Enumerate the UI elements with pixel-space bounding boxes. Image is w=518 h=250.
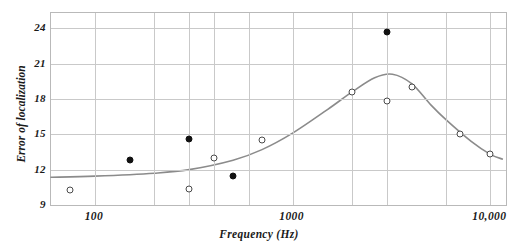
gridline-horizontal bbox=[51, 99, 506, 100]
data-point-filled bbox=[126, 157, 133, 164]
data-point-open bbox=[456, 131, 463, 138]
data-point-open bbox=[487, 151, 494, 158]
y-tick-label: 9 bbox=[2, 198, 46, 210]
data-point-open bbox=[258, 137, 265, 144]
y-tick-label: 21 bbox=[2, 57, 46, 69]
gridline-vertical bbox=[154, 13, 155, 205]
gridline-horizontal bbox=[51, 170, 506, 171]
data-point-open bbox=[408, 84, 415, 91]
gridline-horizontal bbox=[51, 64, 506, 65]
data-point-open bbox=[210, 154, 217, 161]
y-tick-label: 15 bbox=[2, 127, 46, 139]
data-point-open bbox=[186, 185, 193, 192]
x-tick-label: 1000 bbox=[279, 210, 304, 222]
gridline-vertical bbox=[189, 13, 190, 205]
plot-area bbox=[50, 12, 507, 206]
data-point-filled bbox=[383, 28, 390, 35]
data-point-filled bbox=[186, 136, 193, 143]
gridline-horizontal bbox=[51, 134, 506, 135]
gridline-vertical bbox=[490, 13, 491, 205]
gridline-vertical bbox=[293, 13, 294, 205]
gridline-vertical bbox=[446, 13, 447, 205]
x-axis-title: Frequency (Hz) bbox=[0, 228, 518, 240]
gridline-vertical bbox=[387, 13, 388, 205]
y-tick-label: 18 bbox=[2, 92, 46, 104]
data-point-filled bbox=[230, 172, 237, 179]
data-point-open bbox=[349, 88, 356, 95]
gridline-vertical bbox=[249, 13, 250, 205]
x-tick-label: 100 bbox=[85, 210, 103, 222]
gridline-horizontal bbox=[51, 28, 506, 29]
gridline-vertical bbox=[352, 13, 353, 205]
x-axis-tick-labels: 100100010,000 bbox=[0, 210, 518, 226]
gridline-vertical bbox=[95, 13, 96, 205]
y-axis-tick-labels: 24211815129 bbox=[0, 12, 46, 206]
y-tick-label: 12 bbox=[2, 163, 46, 175]
data-point-open bbox=[67, 186, 74, 193]
chart-figure: Error of localization 24211815129 100100… bbox=[0, 0, 518, 250]
fitted-curve bbox=[51, 13, 506, 205]
gridline-vertical bbox=[214, 13, 215, 205]
x-tick-label: 10,000 bbox=[472, 210, 506, 222]
y-tick-label: 24 bbox=[2, 21, 46, 33]
data-point-open bbox=[383, 98, 390, 105]
